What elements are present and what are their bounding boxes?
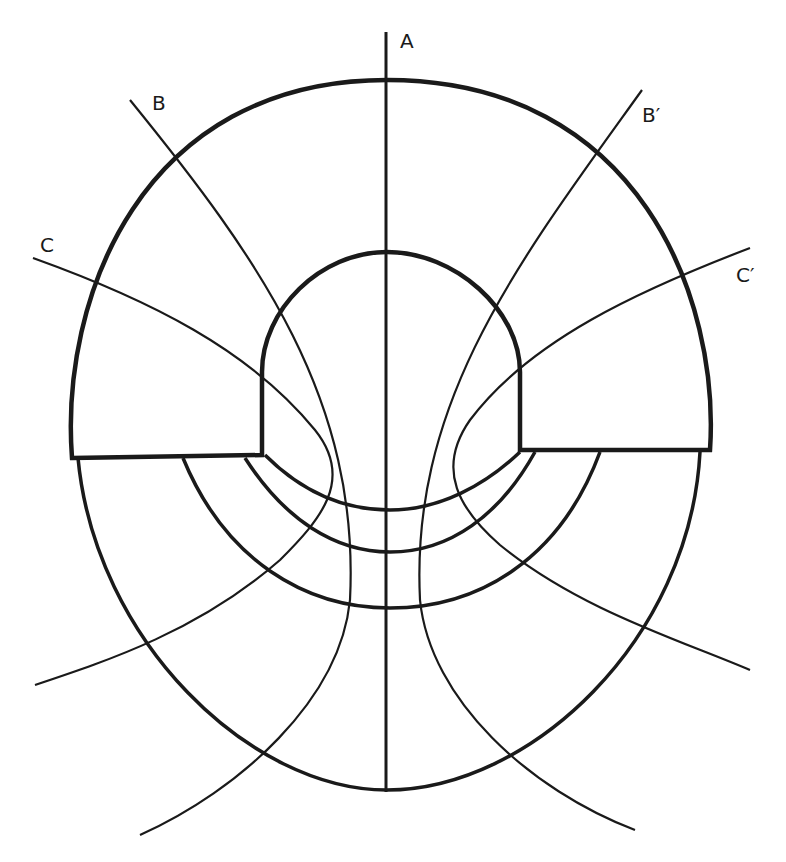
- label-A: A: [400, 29, 414, 53]
- outer-circle-lower: [78, 452, 700, 790]
- label-C: C: [40, 233, 54, 257]
- field-line-diagram: A B B′ C C′: [0, 0, 786, 862]
- label-B: B: [152, 91, 166, 115]
- inner-arc-1: [265, 452, 520, 510]
- label-B-prime: B′: [642, 103, 661, 127]
- outer-boundary: [71, 80, 711, 458]
- inner-arc-3: [183, 452, 600, 608]
- field-line-B: [130, 100, 351, 835]
- label-C-prime: C′: [736, 263, 755, 287]
